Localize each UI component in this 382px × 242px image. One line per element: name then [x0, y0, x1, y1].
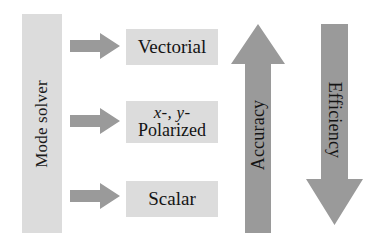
flow-arrow-vectorial-icon — [70, 33, 120, 59]
category-label-scalar: Scalar — [148, 189, 195, 209]
category-label-vectorial: Vectorial — [138, 37, 207, 57]
accuracy-label: Accuracy — [248, 100, 269, 171]
flow-arrow-scalar-icon — [70, 183, 120, 209]
category-box-vectorial: Vectorial — [126, 29, 218, 65]
category-label-polarized-axes: x-, y- — [154, 104, 191, 122]
mode-solver-label: Mode solver — [32, 80, 52, 168]
diagram-canvas: Mode solver Vectorial x-, y- Polarized S… — [0, 0, 382, 242]
efficiency-label: Efficiency — [324, 82, 345, 159]
category-box-polarized: x-, y- Polarized — [126, 101, 218, 143]
category-label-polarized: Polarized — [138, 121, 206, 140]
mode-solver-box: Mode solver — [22, 14, 62, 233]
flow-arrow-polarized-icon — [70, 108, 120, 134]
category-box-scalar: Scalar — [126, 181, 218, 217]
